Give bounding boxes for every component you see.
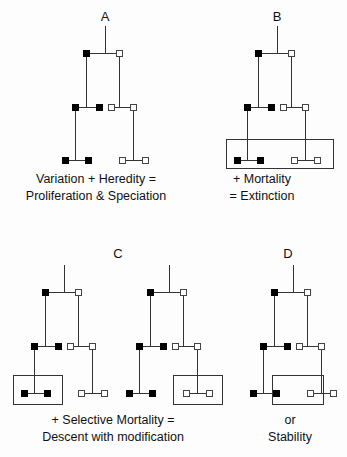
panel-caption-line: = Extinction — [230, 189, 295, 203]
node-square-open — [280, 104, 286, 110]
node-square-open — [291, 157, 297, 163]
node-square-filled — [260, 343, 266, 349]
node-square-filled — [55, 343, 61, 349]
node-square-open — [101, 390, 107, 396]
node-square-open — [206, 390, 212, 396]
node-square-open — [314, 157, 320, 163]
node-square-open — [302, 104, 308, 110]
panel-caption-line: Proliferation & Speciation — [26, 189, 166, 203]
node-square-filled — [147, 289, 153, 295]
extinction-box-all-tips — [226, 139, 333, 168]
node-square-filled — [21, 390, 27, 396]
node-square-filled — [136, 343, 142, 349]
node-square-open — [288, 50, 294, 56]
node-square-filled — [83, 50, 89, 56]
panel-letter-d: D — [283, 246, 292, 261]
panel-d: DorStability — [250, 246, 336, 444]
node-square-open — [130, 104, 136, 110]
panel-a: AVariation + Heredity =Proliferation & S… — [26, 9, 166, 203]
node-square-filled — [31, 343, 37, 349]
node-square-filled — [85, 157, 91, 163]
selective-mortality-box-filled-tips — [13, 375, 62, 404]
panel-c-left — [13, 265, 107, 404]
node-square-filled — [149, 390, 155, 396]
node-square-filled — [44, 390, 50, 396]
node-square-open — [330, 390, 336, 396]
node-square-open — [75, 289, 81, 295]
node-square-filled — [234, 157, 240, 163]
node-square-filled — [250, 390, 256, 396]
node-square-open — [296, 343, 302, 349]
stability-box-inner-tips — [272, 375, 323, 404]
panel-letter-c: C — [113, 246, 122, 261]
node-square-filled — [244, 104, 250, 110]
node-square-filled — [284, 343, 290, 349]
panel-caption-line: Stability — [268, 430, 313, 444]
node-square-filled — [62, 157, 68, 163]
node-square-filled — [160, 343, 166, 349]
node-square-open — [142, 157, 148, 163]
node-square-filled — [268, 104, 274, 110]
panel-caption-line: or — [284, 413, 295, 427]
node-square-open — [180, 289, 186, 295]
node-square-open — [307, 390, 313, 396]
node-square-filled — [126, 390, 132, 396]
panels-layer: AVariation + Heredity =Proliferation & S… — [13, 9, 336, 444]
node-square-open — [116, 50, 122, 56]
node-square-open — [78, 390, 84, 396]
panel-caption-line: + Selective Mortality = — [52, 413, 175, 427]
node-square-open — [89, 343, 95, 349]
node-square-open — [318, 343, 324, 349]
cladogram-figure-canvas: AVariation + Heredity =Proliferation & S… — [0, 0, 347, 457]
node-square-filled — [96, 104, 102, 110]
panel-letter-b: B — [273, 9, 282, 24]
panel-caption-line: Variation + Heredity = — [36, 172, 156, 186]
node-square-open — [172, 343, 178, 349]
panel-caption-line: Descent with modification — [42, 430, 184, 444]
panel-caption-line: + Mortality — [233, 172, 292, 186]
node-square-open — [119, 157, 125, 163]
node-square-filled — [255, 50, 261, 56]
node-square-open — [304, 289, 310, 295]
panel-b: B+ Mortality= Extinction — [226, 9, 333, 203]
node-square-filled — [273, 390, 279, 396]
node-square-filled — [271, 289, 277, 295]
node-square-open — [194, 343, 200, 349]
node-square-open — [67, 343, 73, 349]
node-square-open — [108, 104, 114, 110]
node-square-filled — [42, 289, 48, 295]
panel-letter-a: A — [101, 9, 110, 24]
figure-root: AVariation + Heredity =Proliferation & S… — [0, 0, 347, 457]
node-square-filled — [257, 157, 263, 163]
node-square-open — [183, 390, 189, 396]
node-square-filled — [72, 104, 78, 110]
